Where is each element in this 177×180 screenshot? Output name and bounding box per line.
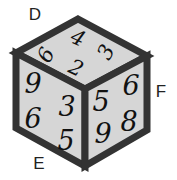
label-e: E: [33, 154, 44, 173]
left-digit-3: 3: [58, 91, 75, 122]
right-digit-9: 9: [94, 118, 111, 149]
right-digit-5: 5: [92, 86, 109, 117]
left-digit-5: 5: [57, 125, 74, 156]
cube-diagram: 4 6 3 2 9 3 6 5 5 6 9 8 D E F: [0, 0, 177, 180]
label-f: F: [156, 82, 166, 101]
right-digit-8: 8: [120, 106, 137, 137]
right-digit-6: 6: [122, 70, 139, 101]
label-d: D: [29, 5, 41, 24]
left-digit-6: 6: [24, 103, 41, 134]
left-digit-9: 9: [24, 68, 41, 99]
